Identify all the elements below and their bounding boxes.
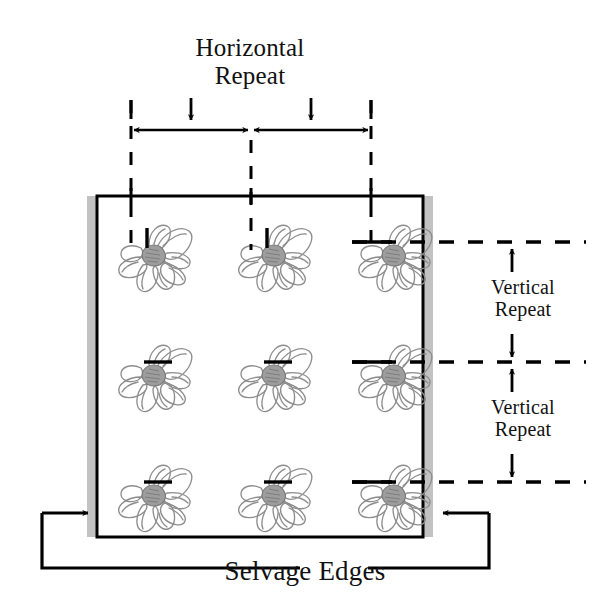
vertical-repeat-label-1: Vertical Repeat xyxy=(458,276,588,321)
horizontal-repeat-dimension xyxy=(131,100,371,130)
vertical-repeat-label-2-line1: Vertical xyxy=(491,396,555,418)
horizontal-repeat-pointers xyxy=(191,98,311,120)
horizontal-repeat-label: Horizontal Repeat xyxy=(140,34,360,90)
vertical-repeat-label-2: Vertical Repeat xyxy=(458,396,588,441)
selvage-edges-label: Selvage Edges xyxy=(140,556,470,586)
horizontal-repeat-label-line2: Repeat xyxy=(140,62,360,90)
vertical-repeat-label-1-line2: Repeat xyxy=(458,298,588,320)
fabric-repeat-diagram: Horizontal Repeat Vertical Repeat Vertic… xyxy=(0,0,607,615)
vertical-repeat-label-1-line1: Vertical xyxy=(491,276,555,298)
vertical-repeat-label-2-line2: Repeat xyxy=(458,418,588,440)
horizontal-repeat-label-line1: Horizontal xyxy=(196,34,305,61)
